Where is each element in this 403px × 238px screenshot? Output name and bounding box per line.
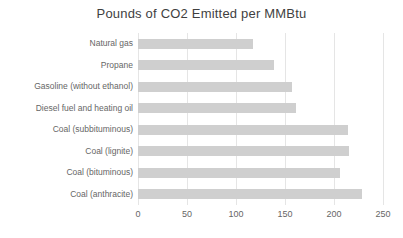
- category-label-propane: Propane: [101, 55, 133, 77]
- category-label-gasoline-without-ethanol: Gasoline (without ethanol): [34, 76, 133, 98]
- bar-coal-anthracite: [138, 189, 362, 199]
- x-axis-tick-label: 250: [375, 209, 390, 219]
- category-label-coal-anthracite: Coal (anthracite): [70, 184, 133, 206]
- gridline-250: [383, 33, 384, 205]
- category-label-coal-subbituminous: Coal (subbituminous): [53, 119, 133, 141]
- gridline-0: [138, 33, 139, 205]
- category-label-coal-lignite: Coal (lignite): [85, 141, 133, 163]
- gridline-150: [285, 33, 286, 205]
- bar-propane: [138, 60, 274, 70]
- gridline-50: [187, 33, 188, 205]
- x-axis-tick-label: 150: [277, 209, 292, 219]
- bar-coal-subbituminous: [138, 125, 348, 135]
- bar-gasoline-without-ethanol: [138, 82, 292, 92]
- x-axis-tick-label: 50: [182, 209, 192, 219]
- category-label-coal-bituminous: Coal (bituminous): [66, 162, 133, 184]
- gridline-100: [236, 33, 237, 205]
- x-axis-tick-label: 0: [135, 209, 140, 219]
- bar-coal-bituminous: [138, 168, 340, 178]
- category-label-diesel-fuel-and-heating-oil: Diesel fuel and heating oil: [36, 98, 133, 120]
- x-axis-tick-label: 100: [228, 209, 243, 219]
- x-axis-tick-label: 200: [326, 209, 341, 219]
- bar-coal-lignite: [138, 146, 349, 156]
- plot-area: [138, 33, 383, 205]
- bar-diesel-fuel-and-heating-oil: [138, 103, 296, 113]
- co2-emissions-bar-chart: Pounds of CO2 Emitted per MMBtu 05010015…: [0, 0, 403, 238]
- chart-title: Pounds of CO2 Emitted per MMBtu: [0, 6, 403, 21]
- bar-natural-gas: [138, 39, 253, 49]
- gridline-200: [334, 33, 335, 205]
- category-label-natural-gas: Natural gas: [90, 33, 133, 55]
